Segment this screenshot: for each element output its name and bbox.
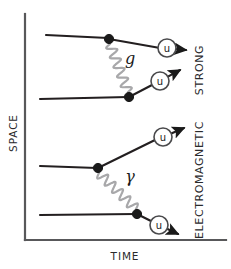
diagram-canvas: uugSTRONG uuγELECTROMAGNETIC TIME SPACE xyxy=(0,0,231,269)
particle-label: u xyxy=(164,43,170,54)
y-axis-label: SPACE xyxy=(7,114,19,152)
particle-label: u xyxy=(157,76,163,87)
boson-label-gluon: g xyxy=(125,49,135,68)
interaction-vertex-dot xyxy=(124,92,133,101)
interaction-vertex-dot xyxy=(93,163,102,172)
incoming-fermion-line xyxy=(46,35,108,38)
feynman-diagram-figure: uugSTRONG uuγELECTROMAGNETIC TIME SPACE xyxy=(0,0,231,269)
interaction-vertex-dot xyxy=(132,209,141,218)
momentum-arrow-icon xyxy=(167,229,178,234)
incoming-fermion-line xyxy=(40,214,136,215)
force-label-strong: STRONG xyxy=(193,45,206,95)
panel-electromagnetic: uuγELECTROMAGNETIC xyxy=(40,121,206,239)
panel-strong: uugSTRONG xyxy=(40,34,206,101)
particle-label: u xyxy=(160,132,166,143)
momentum-arrow-icon xyxy=(168,70,180,76)
interaction-vertex-dot xyxy=(104,34,113,43)
incoming-fermion-line xyxy=(40,97,128,99)
boson-label-photon: γ xyxy=(125,167,135,186)
incoming-fermion-line xyxy=(40,166,97,168)
x-axis-label: TIME xyxy=(110,250,140,262)
momentum-arrow-icon xyxy=(172,128,184,133)
outgoing-fermion-line xyxy=(109,39,160,48)
particle-label: u xyxy=(156,220,162,231)
outgoing-fermion-line xyxy=(98,140,155,168)
force-label-electromagnetic: ELECTROMAGNETIC xyxy=(193,121,206,239)
